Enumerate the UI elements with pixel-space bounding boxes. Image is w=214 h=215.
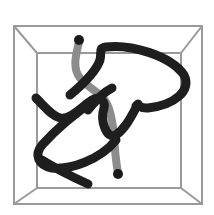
endpoint-start bbox=[74, 35, 84, 45]
box-edge-bl bbox=[14, 188, 37, 204]
box-edge-tl bbox=[14, 26, 37, 53]
knot-figure bbox=[0, 0, 214, 215]
box-edge-tr bbox=[181, 26, 202, 53]
knot-diagram bbox=[0, 0, 214, 215]
endpoint-end bbox=[113, 169, 123, 179]
box-edge-br bbox=[181, 188, 202, 204]
